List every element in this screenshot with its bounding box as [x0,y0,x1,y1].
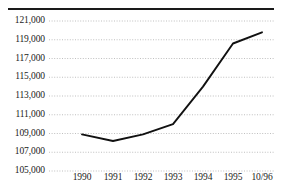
chart-figure: 121,000119,000117,000115,000113,000111,0… [0,0,282,187]
y-axis-tick-label: 109,000 [0,128,45,138]
y-axis-tick-label: 115,000 [0,71,45,81]
y-axis-tick-label: 117,000 [0,53,45,63]
y-axis-tick-label: 121,000 [0,15,45,25]
data-series-line [82,32,262,141]
y-axis-tick-label: 107,000 [0,146,45,156]
x-axis-tick-label: 10/96 [242,172,282,182]
y-axis-tick-label: 113,000 [0,90,45,100]
y-axis-tick-label: 119,000 [0,34,45,44]
y-axis-tick-label: 105,000 [0,165,45,175]
gridline-group [49,21,274,171]
y-axis-tick-label: 111,000 [0,109,45,119]
